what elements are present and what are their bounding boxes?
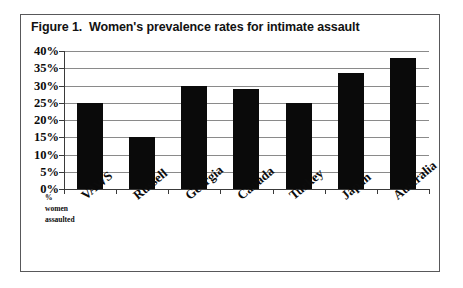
chart-title: Figure 1. Women's prevalence rates for i… [31, 20, 360, 34]
y-axis-labels: 40%35%30%25%20%15%10%5%0% [21, 51, 64, 189]
caption-line-3: assaulted [45, 215, 91, 226]
bar-slot [64, 51, 116, 189]
bar-series [64, 51, 429, 189]
x-tick [429, 189, 430, 194]
bar-australia[interactable] [390, 58, 416, 189]
caption-line-2: women [45, 204, 91, 215]
y-tick-label-5: 5% [40, 166, 59, 179]
x-axis-labels: VAWSRussellGeorgiaCanadaTurkeyJapanAustr… [64, 191, 429, 261]
y-tick-label-15: 15% [34, 131, 59, 144]
y-tick-label-40: 40% [34, 45, 59, 58]
y-tick-label-35: 35% [34, 62, 59, 75]
plot-area [64, 51, 429, 189]
y-axis-caption: % women assaulted [45, 193, 91, 226]
y-tick-label-10: 10% [34, 148, 59, 161]
caption-line-1: % [45, 193, 91, 204]
y-tick-label-30: 30% [34, 79, 59, 92]
figure-frame: Figure 1. Women's prevalence rates for i… [20, 14, 440, 272]
y-tick-label-20: 20% [34, 114, 59, 127]
bar-slot [325, 51, 377, 189]
y-tick-label-25: 25% [34, 97, 59, 110]
